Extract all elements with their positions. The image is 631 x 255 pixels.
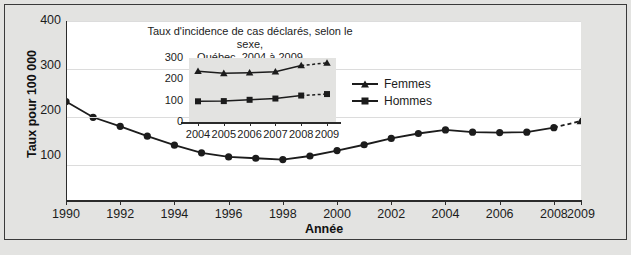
main-x-tick-label-2000: 2000 <box>323 207 351 221</box>
main-x-tick-label-2008: 2008 <box>540 207 568 221</box>
inset-x-tick-2007 <box>275 122 276 126</box>
inset-y-tick-300: 300 <box>145 51 183 63</box>
main-x-tick-label-1996: 1996 <box>215 207 243 221</box>
square-marker-icon <box>352 95 378 107</box>
main-y-tick-200: 200 <box>40 103 61 117</box>
inset-y-tick-0: 0 <box>145 115 183 127</box>
main-x-tick-1990 <box>66 200 67 205</box>
y-axis-title: Taux pour 100 000 <box>25 29 39 179</box>
figure-container: 100200300400 199019921994199619982000200… <box>0 0 631 255</box>
legend: Femmes Hommes <box>352 76 432 110</box>
legend-label-femmes: Femmes <box>384 77 431 91</box>
inset-y-tick-200: 200 <box>145 72 183 84</box>
inset-series-lines <box>189 58 336 122</box>
main-x-tick-1998 <box>283 200 284 205</box>
inset-x-tick-label-2006: 2006 <box>237 128 261 140</box>
main-x-tick-1992 <box>120 200 121 205</box>
inset-x-tick-label-2005: 2005 <box>212 128 236 140</box>
inset-x-tick-label-2008: 2008 <box>289 128 313 140</box>
main-x-tick-2004 <box>445 200 446 205</box>
inset-title-line-1: Taux d'incidence de cas déclarés, selon … <box>135 25 365 51</box>
legend-item-hommes: Hommes <box>352 93 432 108</box>
legend-label-hommes: Hommes <box>384 94 432 108</box>
inset-x-tick-2004 <box>198 122 199 126</box>
gridline-400 <box>66 21 581 22</box>
main-x-tick-2009 <box>581 200 582 205</box>
main-x-tick-2008 <box>554 200 555 205</box>
main-x-tick-label-1992: 1992 <box>106 207 134 221</box>
main-x-tick-label-1990: 1990 <box>52 207 80 221</box>
inset-x-tick-label-2007: 2007 <box>263 128 287 140</box>
x-axis-title: Année <box>66 222 582 236</box>
triangle-marker-icon <box>352 78 378 90</box>
main-x-tick-label-1994: 1994 <box>161 207 189 221</box>
main-y-tick-400: 400 <box>40 13 61 27</box>
main-x-tick-1996 <box>229 200 230 205</box>
main-x-tick-label-2006: 2006 <box>486 207 514 221</box>
inset-x-tick-2008 <box>301 122 302 126</box>
main-x-tick-2000 <box>337 200 338 205</box>
main-x-tick-label-2002: 2002 <box>377 207 405 221</box>
main-y-axis <box>66 21 67 201</box>
inset-y-tick-100: 100 <box>145 94 183 106</box>
gridline-100 <box>66 165 581 166</box>
main-x-tick-1994 <box>174 200 175 205</box>
main-x-tick-2006 <box>500 200 501 205</box>
inset-x-axis <box>181 122 341 124</box>
inset-x-tick-2006 <box>250 122 251 126</box>
main-x-tick-2002 <box>391 200 392 205</box>
main-y-tick-100: 100 <box>40 148 61 162</box>
legend-item-femmes: Femmes <box>352 76 432 91</box>
main-x-axis <box>66 200 582 202</box>
inset-plot-area <box>189 58 336 122</box>
inset-x-tick-label-2009: 2009 <box>315 128 339 140</box>
main-y-tick-300: 300 <box>40 58 61 72</box>
inset-x-tick-label-2004: 2004 <box>186 128 210 140</box>
main-x-tick-label-1998: 1998 <box>269 207 297 221</box>
main-x-tick-label-2009: 2009 <box>567 207 595 221</box>
inset-x-tick-2009 <box>327 122 328 126</box>
main-x-tick-label-2004: 2004 <box>432 207 460 221</box>
inset-chart: Taux d'incidence de cas déclarés, selon … <box>145 25 350 140</box>
inset-x-tick-2005 <box>224 122 225 126</box>
